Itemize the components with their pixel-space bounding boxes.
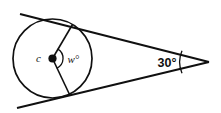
center-point-dot [48, 54, 56, 62]
geometry-diagram: c w° 30° [0, 0, 221, 113]
geometry-canvas: c w° 30° [0, 0, 221, 113]
central-angle-label: w° [68, 53, 80, 65]
vertex-angle-label: 30° [158, 56, 177, 70]
center-label: c [36, 52, 41, 64]
